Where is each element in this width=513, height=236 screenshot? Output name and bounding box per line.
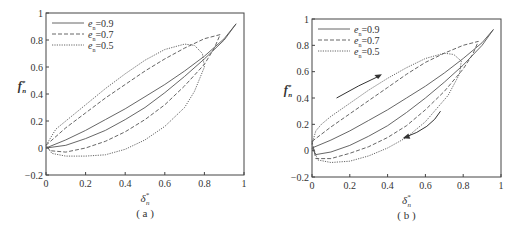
x-tick-label: 1 xyxy=(499,180,504,191)
y-axis-label: f*n xyxy=(284,83,293,99)
y-tick-label: 0.2 xyxy=(297,119,310,130)
y-tick-label: 0.4 xyxy=(31,89,44,100)
legend-label: en=0.5 xyxy=(88,40,114,53)
y-tick-label: 0.8 xyxy=(297,40,310,51)
x-tick-label: 0 xyxy=(310,180,315,191)
x-tick-label: 0.2 xyxy=(344,180,357,191)
x-tick-label: 0.8 xyxy=(457,180,470,191)
y-tick-label: −0.2 xyxy=(291,172,309,183)
y-tick-label: 0.6 xyxy=(31,62,44,73)
x-tick-label: 0 xyxy=(44,178,49,189)
series-line-dotted xyxy=(312,53,461,162)
x-tick-label: 0.6 xyxy=(419,180,432,191)
x-tick-label: 0.4 xyxy=(381,180,394,191)
arrowhead-icon xyxy=(374,74,382,79)
y-tick-label: 0.8 xyxy=(31,35,44,46)
series-line-dashed xyxy=(46,35,220,153)
y-tick-label: 0.6 xyxy=(297,66,310,77)
series-line-dotted xyxy=(46,44,204,156)
y-axis-label: f*n xyxy=(18,79,27,95)
chart-panel-b: 00.20.40.60.81−0.200.20.40.60.81δ*nf*n( … xyxy=(284,14,504,223)
panel-label: ( b ) xyxy=(397,209,416,222)
y-tick-label: 0 xyxy=(38,143,43,154)
y-tick-label: 1 xyxy=(304,14,309,25)
y-tick-label: 0.2 xyxy=(31,116,44,127)
arrowhead-icon xyxy=(403,134,411,139)
x-axis-label: δ*n xyxy=(140,191,150,207)
plot-frame xyxy=(46,13,244,175)
unloading-arrow-icon xyxy=(405,111,441,137)
series-line-solid xyxy=(46,24,236,148)
x-tick-label: 0.4 xyxy=(119,178,132,189)
y-tick-label: 0 xyxy=(304,145,309,156)
x-tick-label: 0.2 xyxy=(79,178,92,189)
y-tick-label: 0.4 xyxy=(297,93,310,104)
figure: 00.20.40.60.81−0.200.20.40.60.81δ*nf*n( … xyxy=(0,0,513,236)
x-tick-label: 0.8 xyxy=(198,178,211,189)
x-tick-label: 1 xyxy=(242,178,247,189)
x-axis-label: δ*n xyxy=(402,193,412,209)
series-line-solid xyxy=(312,30,493,155)
chart-panel-a: 00.20.40.60.81−0.200.20.40.60.81δ*nf*n( … xyxy=(18,8,247,221)
panel-label: ( a ) xyxy=(136,207,154,220)
x-tick-label: 0.6 xyxy=(159,178,172,189)
legend-label: en=0.5 xyxy=(354,46,380,59)
y-tick-label: −0.2 xyxy=(25,170,43,181)
y-tick-label: 1 xyxy=(38,8,43,19)
series-line-dashed xyxy=(312,41,478,158)
